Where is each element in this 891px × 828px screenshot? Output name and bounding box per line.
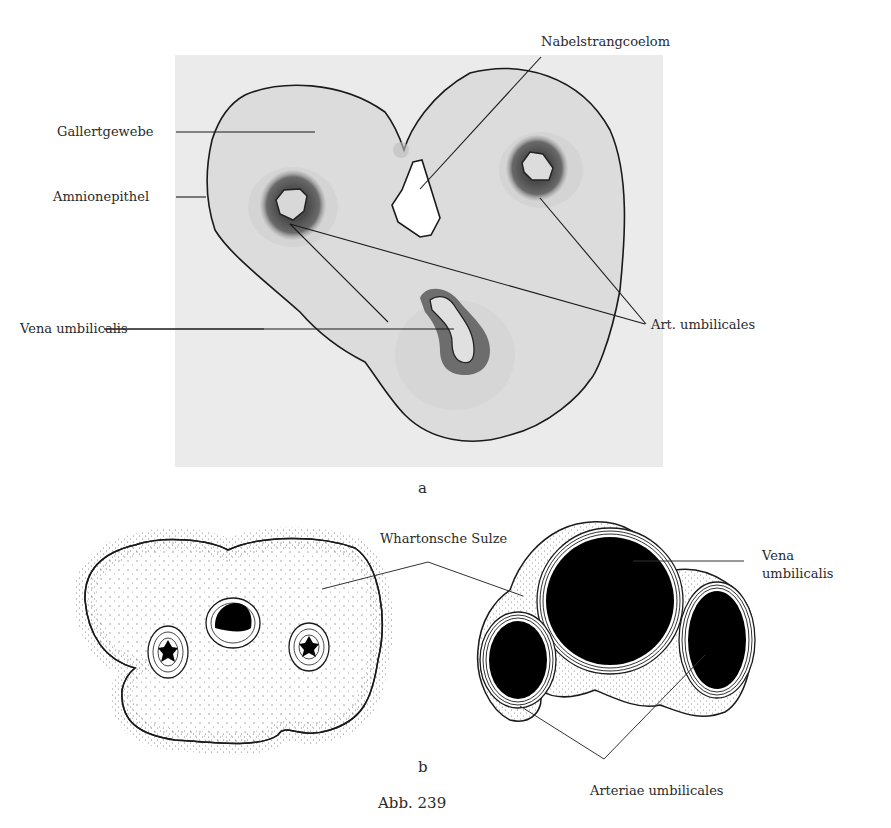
panel-b-right-vein: [537, 528, 683, 674]
label-amnionepithel: Amnionepithel: [52, 189, 149, 204]
label-vena-line2: umbilicalis: [762, 566, 834, 581]
panel-b-left-cord: [85, 538, 382, 743]
figure-caption: Abb. 239: [377, 794, 446, 812]
panel-b-letter: b: [418, 758, 428, 776]
panel-b-left-artery-1: [148, 626, 188, 678]
panel-a-letter: a: [418, 479, 427, 497]
panel-b-right-cord: [478, 522, 755, 721]
panel-b-left-artery-2: [289, 623, 329, 671]
label-gallertgewebe: Gallertgewebe: [57, 124, 154, 139]
figure-canvas: Nabelstrangcoelom Gallertgewebe Amnionep…: [0, 0, 891, 828]
panel-b-right-artery-1: [480, 612, 556, 708]
right-umbilical-artery: [506, 135, 568, 201]
panel-a: Nabelstrangcoelom Gallertgewebe Amnionep…: [19, 34, 755, 497]
label-whartonsche-sulze: Whartonsche Sulze: [380, 531, 508, 546]
label-nabelstrangcoelom: Nabelstrangcoelom: [541, 34, 670, 49]
panel-b-right-artery-2: [679, 582, 755, 698]
label-vena-line1: Vena: [761, 548, 794, 563]
label-art-umbilicales: Art. umbilicales: [650, 317, 755, 332]
left-umbilical-artery: [260, 170, 326, 240]
label-vena-umbilicalis-a: Vena umbilicalis: [19, 321, 128, 336]
panel-b-left-vein: [206, 598, 260, 648]
label-arteriae-umbilicales: Arteriae umbilicales: [589, 783, 724, 798]
panel-b: Whartonsche Sulze Vena umbilicalis Arter…: [85, 522, 834, 798]
